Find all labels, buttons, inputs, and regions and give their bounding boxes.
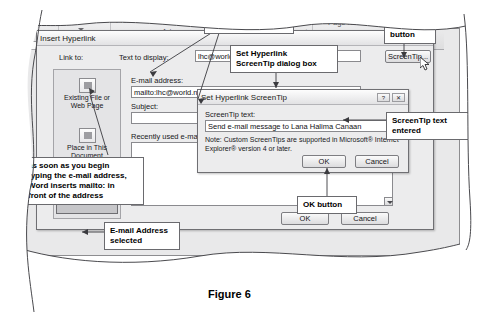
ribbon-tab-table[interactable]: Table xyxy=(64,16,82,25)
email-address-label: E-mail address: xyxy=(131,76,183,85)
scroll-down-arrow-icon[interactable] xyxy=(384,197,393,206)
callout-set-hyperlink-screentip-dialog-box: Set Hyperlink ScreenTip dialog box xyxy=(230,45,338,73)
figure-screenshot: Table Picture Art erence + + Page Number… xyxy=(0,0,481,312)
subject-label: Subject: xyxy=(131,102,158,111)
screentip-text-input[interactable]: Send e-mail message to Lana Halima Canaa… xyxy=(205,120,401,132)
callout-email-address-selected: E-mail Address selected xyxy=(104,222,180,250)
screentip-note: Note: Custom ScreenTips are supported in… xyxy=(205,135,403,153)
callout-ok-button-outer: OK button xyxy=(360,281,420,299)
screentip-ok-button[interactable]: OK xyxy=(302,155,346,168)
callout-ok-button-inner: OK button xyxy=(297,196,357,214)
callout-screentip-text-entered: ScreenTip text entered xyxy=(386,112,476,140)
mouse-cursor-icon xyxy=(420,57,431,71)
file-web-icon xyxy=(79,78,96,93)
text-to-display-label: Text to display: xyxy=(119,53,169,62)
insert-hyperlink-title: Insert Hyperlink xyxy=(40,34,96,43)
callout-mailto-note: as soon as you begin typing the e-mail a… xyxy=(22,157,144,205)
screentip-dialog-title: Set Hyperlink ScreenTip xyxy=(201,93,287,102)
close-icon[interactable]: ✕ xyxy=(392,93,405,102)
ribbon-tab-page-number[interactable]: Page Number xyxy=(328,19,374,27)
figure-caption: Figure 6 xyxy=(208,288,251,300)
document-icon xyxy=(79,128,96,143)
screentip-text-label: ScreenTip text: xyxy=(205,110,255,119)
set-hyperlink-screentip-dialog: Set Hyperlink ScreenTip ? ✕ ScreenTip te… xyxy=(197,89,409,173)
help-icon[interactable]: ? xyxy=(377,93,390,102)
screentip-titlebar[interactable]: Set Hyperlink ScreenTip ? ✕ xyxy=(198,90,408,105)
callout-screentip-button: ScreenTip button xyxy=(384,16,436,44)
screentip-cancel-button[interactable]: Cancel xyxy=(355,155,399,168)
link-to-item-label: Existing File or Web Page xyxy=(64,94,110,109)
callout-email-entered-twice: e-mail address entered twice xyxy=(204,6,294,34)
link-to-label: Link to: xyxy=(59,53,83,62)
link-to-item-existing-file[interactable]: Existing File or Web Page xyxy=(56,76,118,110)
link-to-item-place-in-document[interactable]: Place in This Document xyxy=(56,126,118,160)
ribbon-tab-picture[interactable]: Picture xyxy=(116,16,139,25)
